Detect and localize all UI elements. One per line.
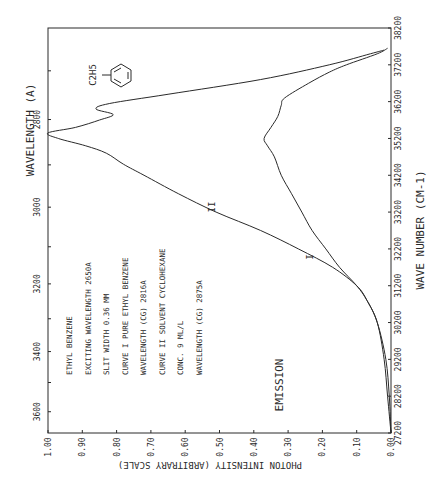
- legend-line: CURVE I PURE ETHYL BENZENE: [121, 257, 130, 375]
- legend-annotations: ETHYL BENZENEEXCITING WAVELENGTH 2650ASL…: [65, 248, 204, 375]
- intensity-tick-label: 1.00: [44, 437, 53, 456]
- legend-line: CURVE II SOLVENT CYCLOHEXANE: [158, 248, 167, 375]
- wavenumber-tick-label: 32200: [394, 237, 403, 261]
- legend-line: WAVELENGTH (CG) 2875A: [195, 280, 204, 375]
- wavenumber-tick-label: 34200: [394, 163, 403, 187]
- wavenumber-tick-label: 30200: [394, 310, 403, 334]
- wavelength-tick-label: 3200: [33, 274, 42, 293]
- intensity-tick-label: 0.10: [353, 437, 362, 456]
- intensity-tick-label: 0.80: [113, 437, 122, 456]
- intensity-tick-label: 0.20: [318, 437, 327, 456]
- molecule-label: C2H5: [88, 64, 98, 86]
- emission-spectrum-chart: 2720028200292003020031200322003320034200…: [0, 0, 431, 484]
- curve-ii-label: II: [207, 202, 217, 213]
- curve-ii-line: [47, 50, 391, 433]
- intensity-tick-label: 0.60: [181, 437, 190, 456]
- wavenumber-axis: 2720028200292003020031200322003320034200…: [388, 16, 403, 445]
- intensity-axis: 0.000.100.200.300.400.500.600.700.800.90…: [44, 430, 396, 457]
- wavenumber-tick-label: 37200: [394, 53, 403, 77]
- legend-line: WAVELENGTH (CG) 2816A: [139, 280, 148, 375]
- intensity-tick-label: 0.50: [216, 437, 225, 456]
- legend-line: SLIT WIDTH 0.36 MM: [102, 293, 111, 375]
- wavenumber-tick-label: 28200: [394, 384, 403, 408]
- intensity-tick-label: 0.90: [78, 437, 87, 456]
- intensity-axis-title: PHOTON INTENSITY (ARBITRARY SCALE): [118, 460, 302, 470]
- ethylbenzene-structure-icon: C2H5: [88, 64, 131, 87]
- legend-line: EXCITING WAVELENGTH 2650A: [84, 262, 93, 375]
- wavenumber-tick-label: 29200: [394, 347, 403, 371]
- wavenumber-axis-title: WAVE NUMBER (CM-1): [414, 170, 427, 289]
- curve-i-label: I: [305, 254, 315, 259]
- intensity-tick-label: 0.70: [147, 437, 156, 456]
- intensity-tick-label: 0.00: [387, 437, 396, 456]
- wavelength-tick-label: 3600: [33, 402, 42, 421]
- intensity-tick-label: 0.40: [250, 437, 259, 456]
- plot-frame: [48, 28, 391, 433]
- emission-label: EMISSION: [273, 359, 286, 412]
- wavenumber-tick-label: 36200: [394, 89, 403, 113]
- legend-line: CONC. 9 ML/L: [176, 320, 185, 375]
- legend-line: ETHYL BENZENE: [65, 316, 74, 375]
- wavelength-tick-label: 3000: [33, 197, 42, 216]
- wavenumber-tick-label: 35200: [394, 126, 403, 150]
- wavenumber-tick-label: 38200: [394, 16, 403, 40]
- wavelength-tick-label: 3400: [33, 342, 42, 361]
- wavenumber-tick-label: 33200: [394, 200, 403, 224]
- wavelength-axis-title: WAVELENGTH (A): [24, 84, 37, 177]
- wavenumber-tick-label: 31200: [394, 274, 403, 298]
- intensity-tick-label: 0.30: [284, 437, 293, 456]
